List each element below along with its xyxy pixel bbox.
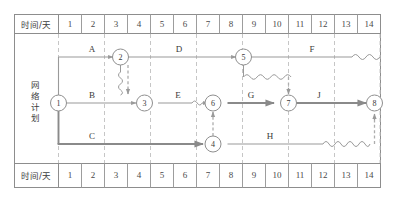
axis-label-top: 时间/天 [21,18,51,30]
node-label-6: 6 [211,99,215,108]
node-label-3: 3 [143,99,147,108]
day-footer-3: 3 [114,171,119,180]
day-footer-4: 4 [137,171,142,180]
day-footer-1: 1 [68,171,73,180]
day-footer-2: 2 [91,171,96,180]
day-header-11: 11 [296,20,305,29]
node-label-8: 8 [373,99,377,108]
activity-label-A: A [89,44,96,54]
node-label-4: 4 [211,140,215,149]
day-footer-9: 9 [252,171,257,180]
day-footer-6: 6 [183,171,188,180]
activity-label-H: H [267,131,274,141]
day-header-4: 4 [137,20,142,29]
day-footer-14: 14 [365,171,374,180]
day-footer-5: 5 [160,171,165,180]
node-label-7: 7 [287,99,291,108]
node-label-2: 2 [119,53,123,62]
node-label-5: 5 [242,53,246,62]
axis-label-bottom: 时间/天 [21,169,51,181]
day-header-3: 3 [114,20,119,29]
side-label-network-plan: 网络计划 [30,81,39,125]
day-header-9: 9 [252,20,257,29]
activity-label-C: C [89,131,95,141]
day-header-14: 14 [365,20,374,29]
day-footer-10: 10 [273,171,282,180]
day-header-6: 6 [183,20,188,29]
day-footer-8: 8 [229,171,234,180]
day-header-12: 12 [319,20,328,29]
network-diagram-figure: 时间/天 时间/天 网络计划 1 2 3 4 5 6 7 8 9 10 11 1… [0,0,401,202]
day-footer-7: 7 [206,171,211,180]
day-header-2: 2 [91,20,96,29]
day-footer-12: 12 [319,171,328,180]
day-header-1: 1 [68,20,73,29]
day-header-13: 13 [342,20,351,29]
activity-label-J: J [317,90,321,100]
day-header-10: 10 [273,20,282,29]
day-header-7: 7 [206,20,211,29]
activity-label-E: E [175,90,181,100]
day-header-5: 5 [160,20,165,29]
day-footer-11: 11 [296,171,305,180]
node-label-1: 1 [57,99,61,108]
day-footer-13: 13 [342,171,351,180]
activity-label-B: B [89,90,95,100]
activity-label-D: D [176,44,183,54]
day-header-8: 8 [229,20,234,29]
activity-label-G: G [248,90,255,100]
table-frame [15,15,381,188]
activity-label-F: F [309,44,314,54]
